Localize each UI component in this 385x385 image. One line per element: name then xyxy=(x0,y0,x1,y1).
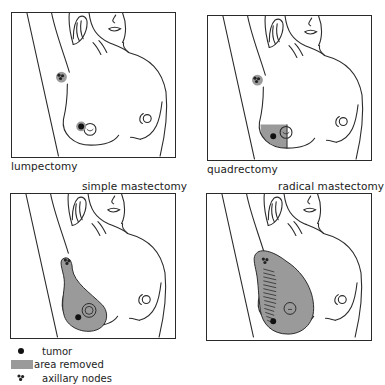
tumor-icon xyxy=(270,133,276,139)
panel-lumpectomy xyxy=(11,12,176,158)
caption-lumpectomy: lumpectomy xyxy=(11,160,78,172)
area-removed-breast xyxy=(61,258,107,331)
area-removed-nodes xyxy=(252,75,263,86)
legend-label-area-removed: area removed xyxy=(34,359,104,370)
tumor-icon xyxy=(270,318,276,324)
radical-mastectomy-illustration xyxy=(207,194,371,340)
panel-radical-mastectomy xyxy=(206,193,372,341)
panel-simple-mastectomy xyxy=(10,193,176,339)
area-removed-nodes xyxy=(56,72,67,83)
simple-mastectomy-illustration xyxy=(11,194,175,338)
gray-swatch-icon xyxy=(8,359,34,369)
legend-item-axillary-nodes: axillary nodes xyxy=(8,372,112,384)
tumor-icon xyxy=(78,123,84,129)
caption-simple-mastectomy: simple mastectomy xyxy=(82,180,187,192)
quadrectomy-illustration xyxy=(208,16,371,160)
lumpectomy-illustration xyxy=(12,13,175,157)
tumor-dot-icon xyxy=(8,346,34,356)
legend-item-tumor: tumor xyxy=(8,345,72,357)
legend-item-area-removed: area removed xyxy=(8,358,104,370)
node-cluster-icon xyxy=(8,373,34,383)
caption-radical-mastectomy: radical mastectomy xyxy=(278,180,384,192)
legend-label-tumor: tumor xyxy=(42,346,72,357)
legend-label-axillary-nodes: axillary nodes xyxy=(42,373,112,384)
area-removed-breast-and-muscle xyxy=(254,251,313,334)
tumor-icon xyxy=(75,314,81,320)
caption-quadrectomy: quadrectomy xyxy=(207,163,278,175)
panel-quadrectomy xyxy=(207,15,372,161)
